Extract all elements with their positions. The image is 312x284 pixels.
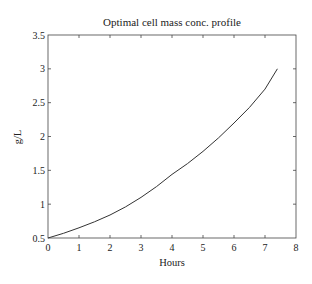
y-tick-label: 2 — [40, 131, 45, 142]
x-axis: 012345678 — [46, 35, 299, 253]
x-tick-label: 8 — [294, 242, 299, 253]
x-tick-label: 4 — [170, 242, 175, 253]
cell-mass-line — [48, 69, 277, 238]
plot-area — [48, 35, 296, 238]
y-axis-label: g/L — [12, 130, 23, 145]
y-tick-label: 3.5 — [33, 30, 46, 41]
y-tick-label: 1.5 — [33, 165, 46, 176]
y-tick-label: 3 — [40, 63, 45, 74]
x-axis-label: Hours — [159, 257, 185, 268]
x-tick-label: 5 — [201, 242, 206, 253]
y-axis: 0.511.522.533.5 — [33, 30, 297, 244]
x-tick-label: 0 — [46, 242, 51, 253]
x-tick-label: 6 — [232, 242, 237, 253]
line-chart: Optimal cell mass conc. profile 01234567… — [0, 0, 312, 284]
y-tick-label: 2.5 — [33, 97, 46, 108]
y-tick-label: 1 — [40, 199, 45, 210]
y-tick-label: 0.5 — [33, 233, 46, 244]
x-tick-label: 2 — [108, 242, 113, 253]
chart-title: Optimal cell mass conc. profile — [103, 16, 241, 28]
x-tick-label: 3 — [139, 242, 144, 253]
x-tick-label: 7 — [263, 242, 268, 253]
x-tick-label: 1 — [77, 242, 82, 253]
